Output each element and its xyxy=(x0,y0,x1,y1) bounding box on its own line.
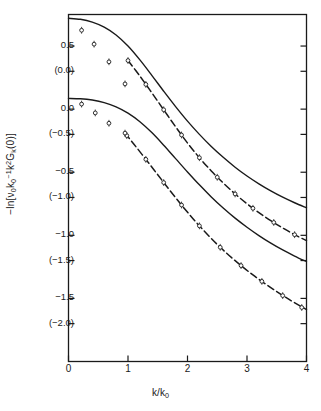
y-axis-ticks-right xyxy=(301,46,307,324)
data-point-marker xyxy=(218,245,222,249)
data-point-marker xyxy=(300,306,304,310)
data-point-marker xyxy=(198,156,202,160)
data-point-marker xyxy=(107,60,111,64)
data-point-marker xyxy=(281,294,285,298)
data-point-marker xyxy=(180,203,184,207)
y-tick-label-secondary: (−0.5) xyxy=(49,127,74,138)
x-axis-ticks xyxy=(69,356,307,362)
data-point-marker xyxy=(180,133,184,137)
data-point-marker xyxy=(80,28,84,32)
data-point-marker xyxy=(272,221,276,225)
data-point-marker xyxy=(123,82,127,86)
data-point-marker xyxy=(162,108,166,112)
y-tick-label-primary: −1.5 xyxy=(55,291,74,302)
data-point-marker xyxy=(144,157,148,161)
data-marker-layer xyxy=(80,27,304,311)
data-point-marker xyxy=(123,131,127,135)
data-point-marker xyxy=(144,83,148,87)
x-tick-label: 2 xyxy=(178,363,198,374)
y-tick-label-primary: 0.0 xyxy=(61,102,74,113)
data-point-marker xyxy=(93,111,97,115)
data-point-marker xyxy=(293,233,297,237)
x-tick-label: 3 xyxy=(237,363,257,374)
series-curve-theory-upper xyxy=(69,18,307,208)
data-point-marker xyxy=(126,59,130,63)
data-point-marker xyxy=(239,264,243,268)
plot-frame xyxy=(69,15,307,362)
y-tick-label-secondary: (−1.0) xyxy=(49,190,74,201)
series-curve-theory-lower xyxy=(69,98,307,261)
x-tick-label: 4 xyxy=(297,363,317,374)
y-tick-label-primary: 0.5 xyxy=(61,39,74,50)
chart-plot-area xyxy=(0,0,321,411)
data-point-marker xyxy=(198,224,202,228)
y-tick-label-secondary: (0.0) xyxy=(54,64,74,75)
y-tick-label-secondary: (−1.5) xyxy=(49,254,74,265)
x-tick-label: 1 xyxy=(118,363,138,374)
figure-container: −ln[ν0k0−1k2Gk(0)] k/k0 0.50.0−0.5−1.0−1… xyxy=(0,0,321,411)
series-curve-data-upper xyxy=(128,61,307,241)
y-tick-label-primary: −0.5 xyxy=(55,165,74,176)
data-point-marker xyxy=(162,181,166,185)
data-point-marker xyxy=(92,42,96,46)
x-tick-label: 0 xyxy=(59,363,79,374)
y-axis-ticks-left xyxy=(69,46,75,324)
series-curve-data-lower xyxy=(125,133,306,309)
data-point-marker xyxy=(233,192,237,196)
data-point-marker xyxy=(80,102,84,106)
data-point-marker xyxy=(107,121,111,125)
data-point-marker xyxy=(251,206,255,210)
data-point-marker xyxy=(215,175,219,179)
y-tick-label-primary: −1.0 xyxy=(55,228,74,239)
data-point-marker xyxy=(260,279,264,283)
data-series-layer xyxy=(69,18,307,309)
y-tick-label-secondary: (−2.0) xyxy=(49,317,74,328)
